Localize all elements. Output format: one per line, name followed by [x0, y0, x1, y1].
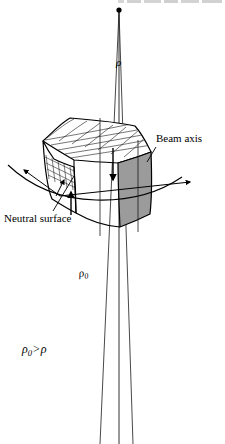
rho-zero-line-right — [119, 11, 133, 444]
radius-line-group — [100, 11, 133, 444]
beam-axis-label: Beam axis — [156, 133, 202, 144]
neutral-surface-label: Neutral surface — [4, 213, 72, 224]
block-front-bottom-edge — [76, 213, 120, 227]
inequality-operator: > — [32, 342, 41, 356]
neutral-surface-curve — [8, 165, 182, 200]
inequality-rhs: ρ — [41, 342, 47, 356]
block-front-vertical-edge — [74, 163, 118, 173]
apex-point — [116, 7, 121, 12]
rho-label: ρ — [116, 57, 121, 68]
rho-zero-label: ρ0 — [78, 267, 89, 282]
inequality-label: ρ0>ρ — [22, 343, 47, 357]
rho-zero-line-left — [100, 11, 119, 444]
